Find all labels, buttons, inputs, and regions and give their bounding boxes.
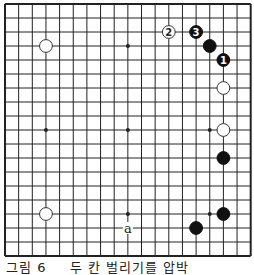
move-number: 3 bbox=[193, 27, 200, 38]
figure-caption: 그림 6 두 칸 벌리기를 압박 bbox=[6, 261, 207, 275]
black-stone bbox=[203, 40, 216, 53]
black-stone bbox=[190, 222, 203, 235]
white-stone: 2 bbox=[162, 26, 175, 39]
black-stone bbox=[217, 152, 230, 165]
black-stone bbox=[217, 208, 230, 221]
star-point bbox=[208, 212, 212, 216]
point-label-marker: a bbox=[124, 221, 132, 236]
go-board-diagram: 231 a bbox=[0, 0, 254, 262]
figure-label: 그림 6 bbox=[6, 260, 46, 275]
star-point bbox=[44, 128, 48, 132]
white-stone bbox=[40, 208, 53, 221]
white-stone bbox=[217, 124, 230, 137]
move-number: 1 bbox=[220, 55, 227, 66]
move-number: 2 bbox=[165, 27, 172, 38]
black-stone: 3 bbox=[190, 26, 203, 39]
star-point bbox=[126, 128, 130, 132]
white-stone bbox=[217, 82, 230, 95]
star-point bbox=[126, 212, 130, 216]
black-stone: 1 bbox=[217, 54, 230, 67]
star-point bbox=[126, 44, 130, 48]
board-markers: a bbox=[123, 221, 133, 236]
figure-caption-text: 두 칸 벌리기를 압박 bbox=[70, 260, 189, 275]
white-stone bbox=[40, 40, 53, 53]
star-point bbox=[208, 128, 212, 132]
